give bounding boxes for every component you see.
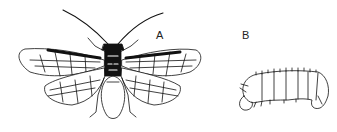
panel-label-a: A bbox=[156, 30, 163, 41]
sawfly-larva-drawing bbox=[0, 0, 337, 132]
illustration-figure: A B bbox=[0, 0, 337, 132]
panel-label-b: B bbox=[242, 30, 249, 41]
